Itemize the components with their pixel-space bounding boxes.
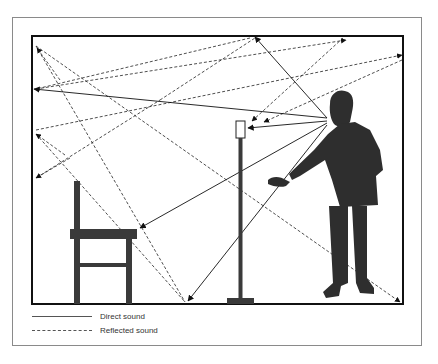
speaker-person	[268, 91, 383, 299]
legend: Direct sound Reflected sound	[32, 309, 252, 337]
microphone	[236, 121, 245, 138]
solid-line-icon	[32, 316, 92, 317]
dashed-line-icon	[32, 330, 92, 331]
legend-item-direct-sound: Direct sound	[32, 309, 252, 323]
legend-label: Direct sound	[100, 312, 145, 321]
chair	[70, 181, 137, 304]
reflected-arrows-left-wall	[36, 48, 70, 178]
legend-label: Reflected sound	[100, 326, 158, 335]
microphone-stand	[227, 121, 254, 304]
legend-item-reflected-sound: Reflected sound	[32, 323, 252, 337]
